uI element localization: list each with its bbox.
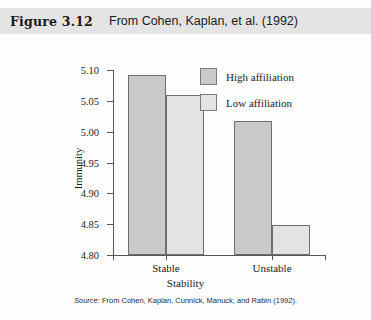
chart-legend: High affiliation Low affiliation <box>200 68 294 120</box>
figure-container: Figure 3.12 From Cohen, Kaplan, et al. (… <box>0 0 371 320</box>
y-tick-mark <box>107 70 113 71</box>
y-axis-label: Immunity <box>73 148 84 189</box>
y-tick-label: 5.10 <box>81 65 99 76</box>
y-tick-mark <box>107 132 113 133</box>
y-tick-mark <box>107 193 113 194</box>
x-axis-line <box>113 255 325 256</box>
x-tick-mark <box>166 255 167 260</box>
source-note: Source: From Cohen, Kaplan, Cunnick, Man… <box>0 296 371 305</box>
y-tick-label: 5.00 <box>81 126 99 137</box>
y-tick-label: 5.05 <box>81 95 99 106</box>
y-tick-label: 4.80 <box>81 250 99 261</box>
legend-label-low-affiliation: Low affiliation <box>226 97 292 109</box>
y-tick-mark <box>107 163 113 164</box>
legend-swatch-high-affiliation <box>200 68 217 85</box>
x-axis-label: Stability <box>0 277 371 289</box>
bar <box>272 225 310 255</box>
x-axis-edge-tick <box>325 255 326 260</box>
legend-item-high-affiliation: High affiliation <box>200 68 294 85</box>
y-tick-mark <box>107 224 113 225</box>
figure-number: Figure 3.12 <box>10 14 93 29</box>
figure-caption: From Cohen, Kaplan, et al. (1992) <box>109 14 298 28</box>
figure-header-band: Figure 3.12 From Cohen, Kaplan, et al. (… <box>0 8 371 34</box>
legend-item-low-affiliation: Low affiliation <box>200 94 294 111</box>
x-tick-mark <box>272 255 273 260</box>
x-tick-label: Stable <box>152 262 180 274</box>
x-tick-label: Unstable <box>252 262 291 274</box>
bar <box>128 75 166 255</box>
legend-swatch-low-affiliation <box>200 94 217 111</box>
source-note-text: From Cohen, Kaplan, Cunnick, Manuck, and… <box>102 296 297 305</box>
y-tick-label: 4.90 <box>81 188 99 199</box>
legend-label-high-affiliation: High affiliation <box>226 71 294 83</box>
y-tick-label: 4.85 <box>81 219 99 230</box>
bar <box>166 95 204 255</box>
bar <box>234 121 272 255</box>
chart-plot-area: 4.804.854.904.955.005.055.10 StableUnsta… <box>0 34 371 320</box>
x-axis-edge-tick <box>113 255 114 260</box>
y-axis-line <box>113 70 114 256</box>
y-tick-mark <box>107 101 113 102</box>
source-note-prefix: Source: <box>74 296 100 305</box>
